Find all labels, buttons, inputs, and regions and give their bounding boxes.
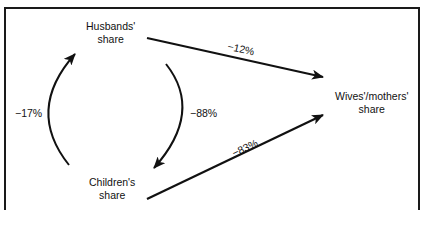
node-childrens-share: Children's share: [89, 176, 135, 202]
label-husbands-to-children: −88%: [190, 107, 217, 119]
node-husbands-line2: share: [86, 33, 135, 46]
node-children-line2: share: [89, 189, 135, 202]
node-wives-share: Wives'/mothers' share: [335, 90, 408, 116]
node-husbands-share: Husbands' share: [86, 20, 135, 46]
node-children-line1: Children's: [89, 176, 135, 189]
arrow-children-to-husbands: [48, 54, 75, 165]
label-children-to-husbands: −17%: [15, 107, 42, 119]
node-wives-line1: Wives'/mothers': [335, 90, 408, 103]
node-husbands-line1: Husbands': [86, 20, 135, 33]
node-wives-line2: share: [335, 103, 408, 116]
arrow-husbands-to-children: [154, 64, 182, 168]
